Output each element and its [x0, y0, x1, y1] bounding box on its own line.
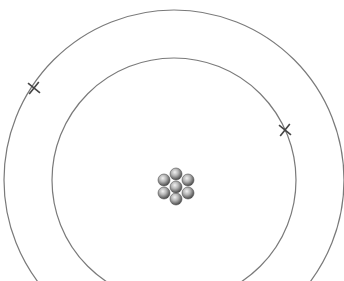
- electron-shells: [4, 10, 344, 281]
- electrons: [28, 82, 291, 136]
- nucleon-1: [170, 168, 182, 180]
- nucleon-3: [182, 187, 194, 199]
- nucleon-5: [158, 187, 170, 199]
- nucleon-2: [182, 174, 194, 186]
- nucleon-7: [170, 181, 182, 193]
- nucleon-6: [158, 174, 170, 186]
- nucleon-4: [170, 193, 182, 205]
- outer-shell: [4, 10, 344, 281]
- nucleus: [158, 168, 194, 205]
- electron-inner-right-cross-icon: [279, 124, 291, 136]
- atom-diagram: [0, 0, 344, 281]
